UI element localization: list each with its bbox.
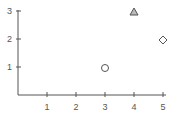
diamond-marker <box>159 36 167 44</box>
x-tick-label: 3 <box>102 102 107 112</box>
scatter-chart: 3 2 1 1 2 3 4 5 <box>0 0 172 119</box>
circle-marker <box>102 65 109 72</box>
x-tick-label: 1 <box>44 102 49 112</box>
y-axis: 3 2 1 <box>7 6 21 95</box>
data-points <box>102 8 168 72</box>
x-tick-label: 2 <box>73 102 78 112</box>
y-tick-label: 1 <box>7 62 12 72</box>
y-tick-label: 3 <box>7 6 12 16</box>
x-tick-label: 5 <box>160 102 165 112</box>
x-tick-label: 4 <box>131 102 136 112</box>
y-tick-label: 2 <box>7 34 12 44</box>
triangle-marker <box>130 8 138 15</box>
x-axis: 1 2 3 4 5 <box>18 92 166 112</box>
